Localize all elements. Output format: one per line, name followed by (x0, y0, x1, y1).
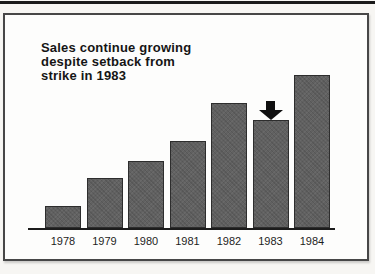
top-rule-line (0, 1, 375, 4)
bar-1981 (170, 141, 206, 228)
arrow-head (259, 110, 283, 120)
x-axis-line (28, 228, 335, 230)
chart-frame: Sales continue growing despite setback f… (3, 13, 369, 261)
bar-1984 (294, 75, 330, 228)
bar-1978 (45, 206, 81, 228)
bar-1980 (128, 161, 164, 228)
bar-1982 (211, 103, 247, 228)
bar-1979 (87, 178, 123, 228)
bar-1983 (253, 120, 289, 228)
x-tick-label-1984: 1984 (287, 235, 337, 247)
page-background: Sales continue growing despite setback f… (0, 0, 375, 274)
bar-plot: 1978197919801981198219831984 (5, 15, 367, 259)
